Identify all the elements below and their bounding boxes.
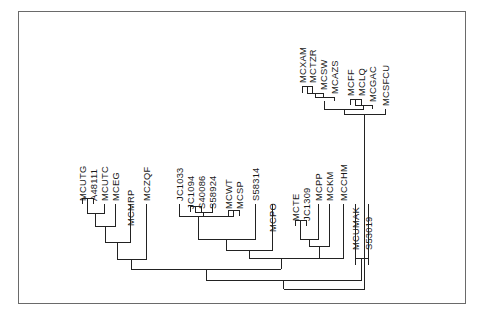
tip-label-A48111: A48111: [88, 169, 99, 201]
tip-label-MCPO: MCPO: [267, 203, 278, 232]
tip-label-JC1309: JC1309: [301, 187, 312, 221]
tip-label-MCUTG: MCUTG: [77, 166, 88, 201]
tip-label-S40086: S40086: [196, 175, 207, 209]
tip-label-MCZQF: MCZQF: [141, 167, 152, 201]
tip-label-MCTZR: MCTZR: [307, 49, 318, 83]
tip-label-MCPP: MCPP: [313, 173, 324, 201]
tip-label-JC1094: JC1094: [185, 175, 196, 209]
tip-label-MCUTC: MCUTC: [99, 166, 110, 201]
tip-label-MCSFCU: MCSFCU: [380, 65, 391, 106]
tip-label-S53019: S53019: [363, 216, 374, 250]
figure-border: [19, 12, 466, 304]
tip-label-MCSW: MCSW: [318, 60, 329, 90]
tip-label-S58314: S58314: [250, 167, 261, 201]
tip-label-S58924: S58924: [207, 175, 218, 209]
tip-label-MCKM: MCKM: [324, 172, 335, 201]
tip-label-MCMRP: MCMRP: [125, 190, 136, 226]
tip-label-MCAZS: MCAZS: [329, 60, 340, 94]
tip-label-MCUMAK: MCUMAK: [350, 207, 361, 250]
tip-label-MCTE: MCTE: [290, 194, 301, 221]
tip-label-MCCHM: MCCHM: [338, 164, 349, 201]
dendrogram-canvas: MCUTG A48111 MCUTC MCEG MCMRP MCZQF JC10…: [0, 0, 484, 323]
tip-label-MCEG: MCEG: [110, 172, 121, 201]
tip-label-MCGAC: MCGAC: [367, 66, 378, 102]
tip-label-MCSP: MCSP: [234, 181, 245, 209]
tip-label-JC1033: JC1033: [174, 167, 185, 201]
tip-label-MCFF: MCFF: [345, 69, 356, 96]
tip-label-MCLQ: MCLQ: [356, 68, 367, 96]
tip-label-MCWT: MCWT: [223, 179, 234, 209]
dendrogram-figure: MCUTG A48111 MCUTC MCEG MCMRP MCZQF JC10…: [0, 0, 484, 323]
